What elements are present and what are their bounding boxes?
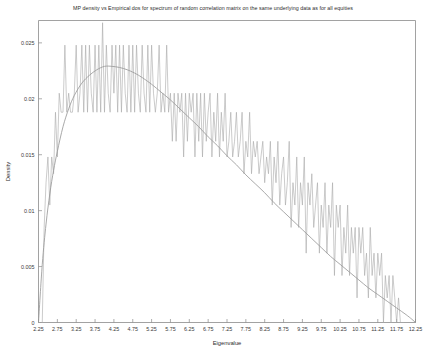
x-tick-label: 4.75 <box>128 326 139 332</box>
y-axis-title: Density <box>5 162 11 181</box>
empirical-dos-curve <box>39 23 405 323</box>
x-tick-label: 3.75 <box>90 326 101 332</box>
y-tick-label: 0 <box>32 320 35 326</box>
x-tick-label: 10.75 <box>352 326 366 332</box>
x-tick-label: 6.25 <box>184 326 195 332</box>
axes-group <box>39 21 416 323</box>
x-tick-label: 10.25 <box>333 326 347 332</box>
x-tick-label: 4.25 <box>109 326 120 332</box>
y-tick-label: 0.02 <box>24 96 35 102</box>
x-tick-label: 12.25 <box>409 326 423 332</box>
x-axis-title: Eigenvalue <box>213 340 242 346</box>
x-ticks-group: 2.252.753.253.754.254.755.255.756.256.75… <box>33 319 422 332</box>
x-tick-label: 8.75 <box>278 326 289 332</box>
x-tick-label: 11.75 <box>390 326 403 332</box>
x-tick-label: 2.25 <box>33 326 44 332</box>
x-tick-label: 5.75 <box>165 326 176 332</box>
x-tick-label: 7.75 <box>241 326 252 332</box>
x-tick-label: 6.75 <box>203 326 214 332</box>
y-tick-label: 0.01 <box>24 208 35 214</box>
x-tick-label: 9.75 <box>316 326 327 332</box>
x-tick-label: 7.25 <box>222 326 233 332</box>
plot-canvas: 2.252.753.253.754.254.755.255.756.256.75… <box>0 0 426 358</box>
x-tick-label: 2.75 <box>52 326 63 332</box>
x-tick-label: 3.25 <box>71 326 82 332</box>
series-group <box>39 23 416 323</box>
y-tick-label: 0.025 <box>21 40 35 46</box>
chart-figure: MP density vs Empirical dos for spectrum… <box>0 0 426 358</box>
x-tick-label: 8.25 <box>259 326 270 332</box>
x-tick-label: 11.25 <box>371 326 384 332</box>
y-tick-label: 0.015 <box>21 152 35 158</box>
x-tick-label: 5.25 <box>146 326 157 332</box>
y-tick-label: 0.005 <box>21 264 35 270</box>
mp-density-curve <box>39 66 416 322</box>
x-tick-label: 9.25 <box>297 326 308 332</box>
